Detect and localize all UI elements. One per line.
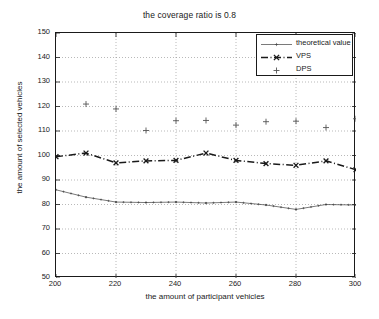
legend-box[interactable]: theoretical valueVPSDPS: [256, 34, 353, 76]
y-tick-label: 90: [20, 174, 50, 183]
x-tick-label: 240: [155, 279, 195, 288]
x-tick-label: 260: [215, 279, 255, 288]
legend-label: DPS: [296, 64, 311, 73]
legend-marker-plus-icon: [260, 63, 293, 76]
legend-item-dps[interactable]: DPS: [257, 63, 354, 76]
y-tick-label: 140: [20, 52, 50, 61]
x-tick-label: 300: [335, 279, 375, 288]
series-theoretical-value: [56, 189, 356, 211]
x-axis-title: the amount of participant vehicles: [55, 292, 355, 301]
legend-label: VPS: [296, 51, 311, 60]
x-tick-label: 280: [275, 279, 315, 288]
series-vps: [56, 151, 356, 172]
y-tick-label: 130: [20, 76, 50, 85]
legend-item-theoretical-value[interactable]: theoretical value: [257, 37, 354, 50]
y-tick-label: 100: [20, 150, 50, 159]
legend-marker-x-icon: [260, 50, 293, 63]
y-tick-label: 70: [20, 223, 50, 232]
legend-label: theoretical value: [296, 38, 351, 47]
y-tick-label: 110: [20, 125, 50, 134]
figure-canvas: the coverage ratio is 0.8 the amount of …: [0, 0, 379, 319]
y-tick-label: 80: [20, 199, 50, 208]
chart-title: the coverage ratio is 0.8: [0, 10, 379, 20]
y-tick-label: 150: [20, 27, 50, 36]
y-tick-label: 60: [20, 248, 50, 257]
x-tick-label: 220: [95, 279, 135, 288]
x-tick-label: 200: [35, 279, 75, 288]
legend-item-vps[interactable]: VPS: [257, 50, 354, 63]
legend-marker-plus-small-icon: [260, 37, 293, 50]
series-dps: [83, 101, 356, 133]
y-tick-label: 120: [20, 101, 50, 110]
